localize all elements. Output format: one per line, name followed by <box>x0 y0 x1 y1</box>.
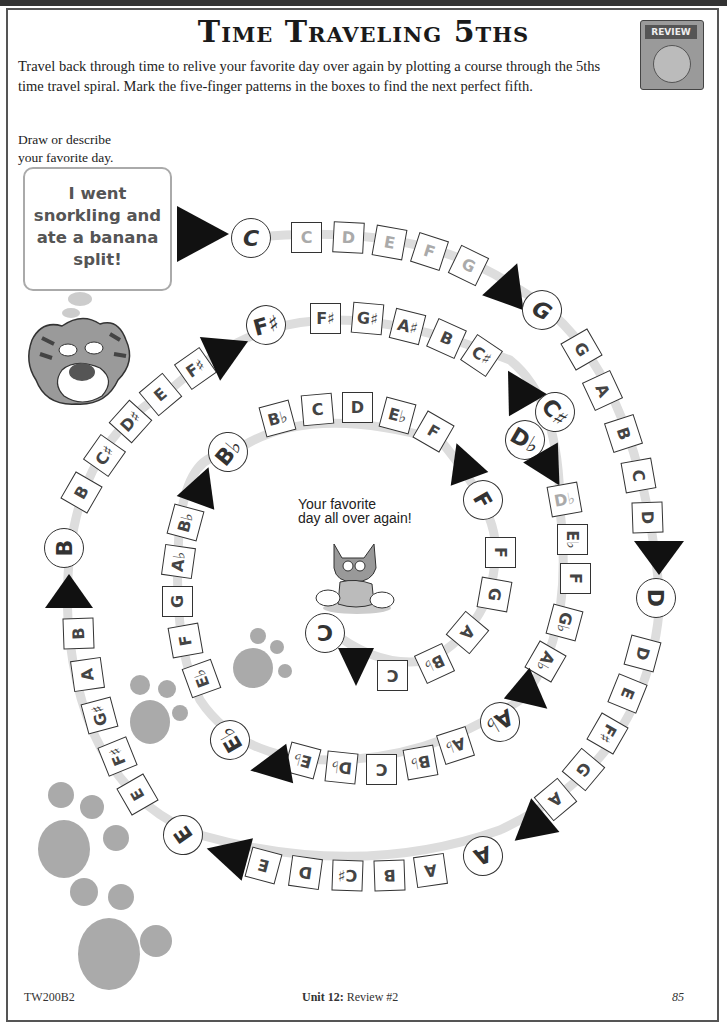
note-box[interactable]: C♯ <box>331 859 363 891</box>
paw-print-icon <box>270 640 284 654</box>
node-b[interactable]: B <box>44 528 84 568</box>
footer-unit-label: Unit 12: <box>302 990 344 1004</box>
note-box[interactable]: F <box>485 537 516 568</box>
note-box[interactable]: C <box>366 754 397 785</box>
paw-print-icon <box>250 628 266 644</box>
note-box[interactable]: G <box>162 586 193 617</box>
paw-print-icon <box>103 825 129 851</box>
note-box[interactable]: F♯ <box>310 303 341 334</box>
note-box[interactable]: B♭ <box>403 745 439 781</box>
center-line-2: day all over again! <box>298 511 412 525</box>
arrow-up-icon <box>45 574 93 608</box>
center-line-1: Your favorite <box>298 497 412 511</box>
paw-print-icon <box>233 648 273 688</box>
note-box[interactable]: A <box>70 657 105 692</box>
note-box[interactable]: B <box>62 617 94 649</box>
note-box[interactable]: E♭ <box>557 524 588 555</box>
arrow-down-icon <box>634 541 684 575</box>
paw-print-icon <box>78 918 140 990</box>
page-number: 85 <box>672 990 684 1005</box>
note-box[interactable]: F <box>168 623 204 659</box>
note-box[interactable]: D <box>332 221 365 254</box>
paw-print-icon <box>140 925 172 957</box>
note-box[interactable]: C <box>377 660 408 691</box>
footer-unit: Unit 12: Review #2 <box>302 990 398 1005</box>
paw-print-icon <box>130 700 170 744</box>
footer-code: TW200B2 <box>24 990 75 1005</box>
paw-print-icon <box>38 820 90 878</box>
note-box[interactable]: G <box>477 577 513 613</box>
paw-print-icon <box>108 884 134 910</box>
arrow-left-icon <box>247 744 293 790</box>
note-box[interactable]: F <box>560 563 591 594</box>
note-box[interactable]: C <box>621 458 657 494</box>
cat-illustration <box>312 538 402 616</box>
note-box[interactable]: D <box>631 501 663 533</box>
paw-print-icon <box>48 782 74 808</box>
node-d[interactable]: D <box>636 578 676 618</box>
paw-print-icon <box>172 705 188 721</box>
note-box[interactable]: A♭ <box>161 544 196 579</box>
note-box[interactable]: E <box>372 225 408 261</box>
paw-print-icon <box>130 675 150 695</box>
paw-print-icon <box>278 664 292 678</box>
note-box[interactable]: D <box>288 855 323 890</box>
center-message: Your favorite day all over again! <box>298 497 412 525</box>
note-box[interactable]: D♭ <box>324 750 358 784</box>
paw-print-icon <box>158 680 176 698</box>
paw-print-icon <box>80 795 104 819</box>
note-box[interactable]: A <box>413 853 448 888</box>
note-box[interactable]: C <box>291 222 322 253</box>
paw-print-icon <box>70 878 98 906</box>
note-box[interactable]: B <box>373 859 405 891</box>
node-c[interactable]: C <box>231 218 271 258</box>
arrow-right-icon <box>177 206 229 262</box>
note-box[interactable]: G♯ <box>351 302 385 336</box>
note-box[interactable]: D♭ <box>547 482 583 518</box>
note-box[interactable]: D <box>342 392 373 423</box>
arrow-down-icon <box>338 648 374 686</box>
node-c-final[interactable]: C <box>305 613 345 653</box>
note-box[interactable]: C <box>301 393 335 427</box>
footer-unit-title: Review #2 <box>344 990 399 1004</box>
